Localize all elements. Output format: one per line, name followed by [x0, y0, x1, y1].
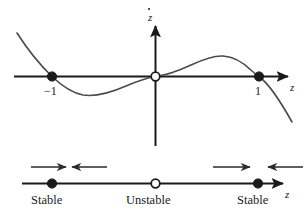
phase-marker-unstable-origin [151, 179, 160, 188]
zdot-glyph: z [148, 12, 152, 23]
phase-marker-stable-right [253, 179, 262, 188]
fixed-point-stable-right [254, 72, 263, 81]
horizontal-axis-label: z [290, 82, 294, 93]
tick-label-one: 1 [255, 85, 261, 97]
phase-label-unstable: Unstable [126, 194, 170, 207]
phase-line-panel [22, 167, 303, 188]
tick-label-minus-one: −1 [44, 85, 57, 97]
phase-line-axis-label: z [285, 189, 289, 200]
phase-label-stable-left: Stable [31, 194, 62, 207]
vertical-axis-label: z [148, 12, 152, 23]
figure-canvas [0, 0, 308, 215]
fixed-point-unstable-origin [151, 72, 160, 81]
phase-portrait-figure: z z −1 1 z Stable Unstable Stable [0, 0, 308, 215]
vertical-axis-label-text: z [148, 11, 152, 23]
phase-marker-stable-left [47, 179, 56, 188]
fixed-point-stable-left [47, 72, 56, 81]
phase-label-stable-right: Stable [237, 194, 268, 207]
